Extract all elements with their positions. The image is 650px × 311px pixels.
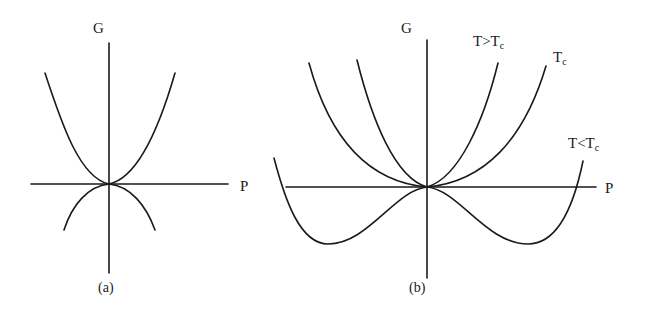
- label-t-above-tc-main: T>T: [473, 33, 500, 49]
- panel-a-upward-curve: [45, 73, 175, 184]
- label-t-above-tc: T>Tc: [473, 34, 504, 49]
- label-tc: Tc: [553, 50, 567, 65]
- panel-b-p-label: P: [605, 181, 613, 196]
- figure-canvas: [0, 0, 650, 311]
- panel-b-curve-t-below-tc: [274, 158, 583, 244]
- label-tc-sub: c: [562, 56, 566, 67]
- panel-a-g-label: G: [93, 21, 104, 36]
- label-tc-main: T: [553, 49, 562, 65]
- label-t-below-tc: T<Tc: [568, 136, 599, 151]
- panel-b-g-label: G: [401, 21, 412, 36]
- panel-b-caption: (b): [409, 281, 425, 295]
- label-t-below-tc-main: T<T: [568, 135, 595, 151]
- panel-a-caption: (a): [98, 281, 114, 295]
- panel-a-p-label: P: [240, 179, 248, 194]
- label-t-below-tc-sub: c: [595, 142, 599, 153]
- label-t-above-tc-sub: c: [500, 40, 504, 51]
